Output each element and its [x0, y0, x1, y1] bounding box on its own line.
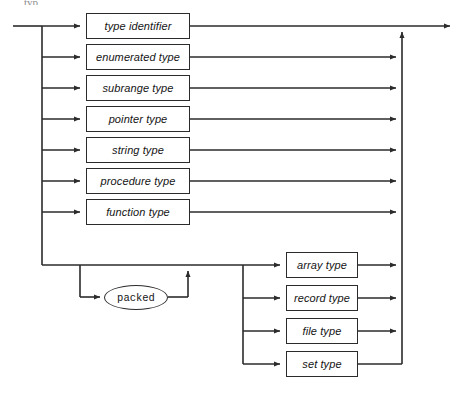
node-function-type[interactable]: function type: [86, 199, 190, 225]
node-file-type[interactable]: file type: [286, 318, 358, 344]
rail-lines: [0, 0, 465, 394]
node-type-identifier[interactable]: type identifier: [86, 13, 190, 39]
node-packed[interactable]: packed: [104, 285, 168, 310]
node-set-type[interactable]: set type: [286, 351, 358, 377]
node-record-type[interactable]: record type: [286, 285, 358, 311]
node-label: function type: [106, 206, 170, 218]
node-label: pointer type: [109, 113, 168, 125]
syntax-diagram: typ: [0, 0, 465, 394]
node-label: packed: [117, 292, 155, 304]
node-label: set type: [302, 358, 341, 370]
node-array-type[interactable]: array type: [286, 252, 358, 278]
node-string-type[interactable]: string type: [86, 137, 190, 163]
node-enumerated-type[interactable]: enumerated type: [86, 44, 190, 70]
node-label: procedure type: [101, 175, 176, 187]
node-label: type identifier: [105, 20, 172, 32]
node-label: array type: [297, 259, 347, 271]
node-subrange-type[interactable]: subrange type: [86, 75, 190, 101]
node-label: record type: [294, 292, 350, 304]
node-pointer-type[interactable]: pointer type: [86, 106, 190, 132]
node-label: enumerated type: [96, 51, 180, 63]
node-label: file type: [303, 325, 342, 337]
node-procedure-type[interactable]: procedure type: [86, 168, 190, 194]
node-label: subrange type: [102, 82, 173, 94]
node-label: string type: [112, 144, 164, 156]
